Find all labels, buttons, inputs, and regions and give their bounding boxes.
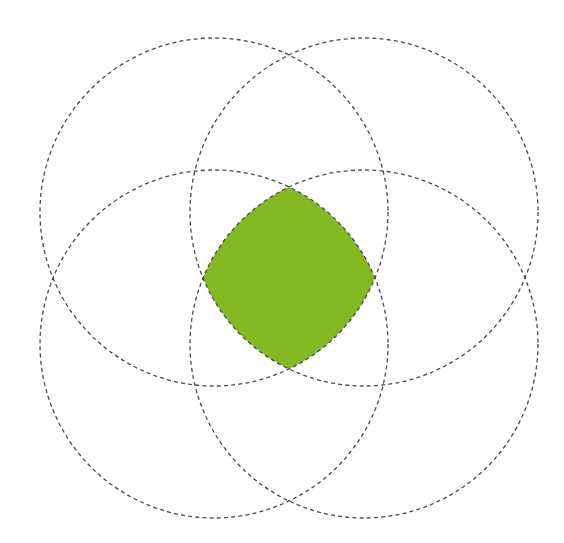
venn-diagram <box>0 0 564 543</box>
diagram-canvas <box>0 0 564 543</box>
intersection-region <box>203 187 375 369</box>
